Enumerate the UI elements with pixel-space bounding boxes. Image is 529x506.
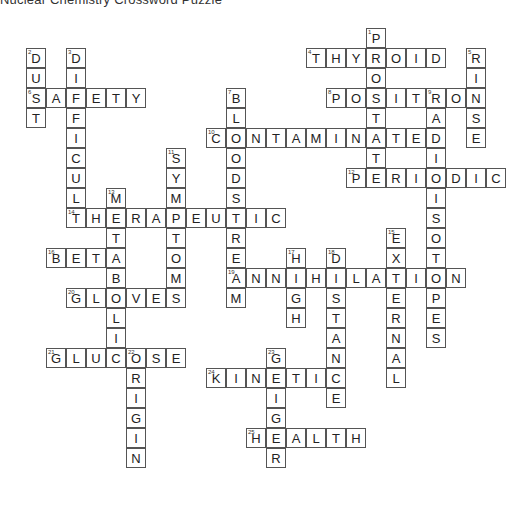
- crossword-cell[interactable]: 1P: [366, 28, 386, 48]
- crossword-cell[interactable]: 13M: [106, 188, 126, 208]
- crossword-cell[interactable]: 8P: [326, 88, 346, 108]
- crossword-cell[interactable]: 25H: [246, 428, 266, 448]
- crossword-cell[interactable]: 15E: [386, 228, 406, 248]
- crossword-cell[interactable]: I: [326, 128, 346, 148]
- crossword-cell[interactable]: I: [466, 68, 486, 88]
- crossword-cell[interactable]: G: [266, 408, 286, 428]
- crossword-cell[interactable]: 9R: [426, 88, 446, 108]
- crossword-cell[interactable]: S: [146, 348, 166, 368]
- crossword-cell[interactable]: 5R: [466, 48, 486, 68]
- crossword-cell[interactable]: T: [86, 248, 106, 268]
- crossword-cell[interactable]: L: [346, 268, 366, 288]
- crossword-cell[interactable]: O: [106, 288, 126, 308]
- crossword-cell[interactable]: 22O: [126, 348, 146, 368]
- crossword-cell[interactable]: R: [386, 168, 406, 188]
- crossword-cell[interactable]: U: [66, 168, 86, 188]
- crossword-cell[interactable]: A: [46, 88, 66, 108]
- crossword-cell[interactable]: I: [386, 88, 406, 108]
- crossword-cell[interactable]: A: [286, 128, 306, 148]
- crossword-cell[interactable]: I: [466, 168, 486, 188]
- crossword-cell[interactable]: N: [246, 268, 266, 288]
- crossword-cell[interactable]: T: [366, 148, 386, 168]
- crossword-cell[interactable]: E: [106, 208, 126, 228]
- crossword-cell[interactable]: S: [366, 88, 386, 108]
- crossword-cell[interactable]: T: [166, 228, 186, 248]
- crossword-cell[interactable]: C: [326, 368, 346, 388]
- crossword-cell[interactable]: O: [446, 88, 466, 108]
- crossword-cell[interactable]: H: [86, 208, 106, 228]
- crossword-cell[interactable]: D: [226, 168, 246, 188]
- crossword-cell[interactable]: H: [286, 308, 306, 328]
- crossword-cell[interactable]: N: [466, 88, 486, 108]
- crossword-cell[interactable]: R: [226, 228, 246, 248]
- crossword-cell[interactable]: E: [366, 168, 386, 188]
- crossword-cell[interactable]: H: [326, 48, 346, 68]
- crossword-cell[interactable]: T: [406, 88, 426, 108]
- crossword-cell[interactable]: U: [206, 208, 226, 228]
- crossword-cell[interactable]: A: [366, 128, 386, 148]
- crossword-cell[interactable]: A: [386, 348, 406, 368]
- crossword-cell[interactable]: M: [306, 128, 326, 148]
- crossword-cell[interactable]: S: [166, 288, 186, 308]
- crossword-cell[interactable]: S: [426, 328, 446, 348]
- crossword-cell[interactable]: E: [226, 248, 246, 268]
- crossword-cell[interactable]: 20G: [66, 288, 86, 308]
- crossword-cell[interactable]: E: [326, 388, 346, 408]
- crossword-cell[interactable]: 12P: [346, 168, 366, 188]
- crossword-cell[interactable]: T: [106, 88, 126, 108]
- crossword-cell[interactable]: 18D: [326, 248, 346, 268]
- crossword-cell[interactable]: T: [266, 128, 286, 148]
- crossword-cell[interactable]: L: [306, 428, 326, 448]
- crossword-cell[interactable]: X: [386, 248, 406, 268]
- crossword-cell[interactable]: I: [406, 168, 426, 188]
- crossword-cell[interactable]: O: [426, 268, 446, 288]
- crossword-cell[interactable]: E: [386, 288, 406, 308]
- crossword-cell[interactable]: 16B: [46, 248, 66, 268]
- crossword-cell[interactable]: T: [106, 228, 126, 248]
- crossword-cell[interactable]: E: [86, 88, 106, 108]
- crossword-cell[interactable]: L: [106, 308, 126, 328]
- crossword-cell[interactable]: R: [126, 208, 146, 228]
- crossword-cell[interactable]: O: [226, 128, 246, 148]
- crossword-cell[interactable]: A: [286, 428, 306, 448]
- crossword-cell[interactable]: 24K: [206, 368, 226, 388]
- crossword-cell[interactable]: P: [166, 208, 186, 228]
- crossword-cell[interactable]: N: [246, 128, 266, 148]
- crossword-cell[interactable]: I: [226, 368, 246, 388]
- crossword-cell[interactable]: N: [126, 448, 146, 468]
- crossword-cell[interactable]: N: [266, 268, 286, 288]
- crossword-cell[interactable]: F: [66, 108, 86, 128]
- crossword-cell[interactable]: E: [426, 308, 446, 328]
- crossword-cell[interactable]: 2D: [26, 48, 46, 68]
- crossword-cell[interactable]: T: [386, 128, 406, 148]
- crossword-cell[interactable]: N: [326, 348, 346, 368]
- crossword-cell[interactable]: I: [126, 428, 146, 448]
- crossword-cell[interactable]: I: [66, 68, 86, 88]
- crossword-cell[interactable]: 4T: [306, 48, 326, 68]
- crossword-cell[interactable]: A: [106, 248, 126, 268]
- crossword-cell[interactable]: 11S: [166, 148, 186, 168]
- crossword-cell[interactable]: E: [466, 128, 486, 148]
- crossword-cell[interactable]: T: [326, 308, 346, 328]
- crossword-cell[interactable]: M: [226, 288, 246, 308]
- crossword-cell[interactable]: C: [486, 168, 506, 188]
- crossword-cell[interactable]: E: [146, 288, 166, 308]
- crossword-cell[interactable]: I: [426, 148, 446, 168]
- crossword-cell[interactable]: T: [426, 248, 446, 268]
- crossword-cell[interactable]: Y: [346, 48, 366, 68]
- crossword-cell[interactable]: H: [306, 268, 326, 288]
- crossword-cell[interactable]: M: [166, 268, 186, 288]
- crossword-cell[interactable]: G: [126, 408, 146, 428]
- crossword-cell[interactable]: I: [66, 128, 86, 148]
- crossword-cell[interactable]: 10C: [206, 128, 226, 148]
- crossword-cell[interactable]: A: [326, 328, 346, 348]
- crossword-cell[interactable]: D: [446, 168, 466, 188]
- crossword-cell[interactable]: U: [26, 68, 46, 88]
- crossword-cell[interactable]: I: [246, 208, 266, 228]
- crossword-cell[interactable]: I: [426, 188, 446, 208]
- crossword-cell[interactable]: U: [86, 348, 106, 368]
- crossword-cell[interactable]: Y: [126, 88, 146, 108]
- crossword-cell[interactable]: E: [266, 368, 286, 388]
- crossword-cell[interactable]: C: [266, 208, 286, 228]
- crossword-cell[interactable]: R: [366, 48, 386, 68]
